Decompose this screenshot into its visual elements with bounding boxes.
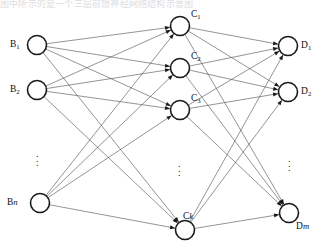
edge-Ck-to-D2 bbox=[191, 100, 282, 222]
node-c3[interactable] bbox=[171, 101, 190, 120]
node-b1[interactable] bbox=[28, 36, 47, 55]
edge-C3-to-D2 bbox=[189, 94, 278, 109]
edge-B1-to-C1-arrowhead bbox=[165, 26, 170, 30]
edge-C1-to-D1 bbox=[189, 28, 278, 44]
edge-Ck-to-Dm bbox=[194, 215, 279, 229]
node-bn[interactable] bbox=[31, 194, 50, 213]
ellipsis-output-layer: ... bbox=[288, 157, 291, 171]
node-label-d2: D2 bbox=[301, 87, 311, 98]
node-b2[interactable] bbox=[28, 81, 47, 100]
edge-C1-to-D2-arrowhead bbox=[274, 82, 279, 86]
arrowheads-group bbox=[165, 26, 284, 229]
edge-Ck-to-D1-arrowhead bbox=[279, 55, 283, 61]
node-d1[interactable] bbox=[279, 37, 298, 56]
edge-Bn-to-C1-arrowhead bbox=[169, 34, 174, 39]
edge-Ck-to-D1 bbox=[190, 55, 284, 222]
edge-B2-to-C2-arrowhead bbox=[165, 68, 170, 72]
edge-B2-to-C2 bbox=[46, 70, 170, 89]
edge-Ck-to-D2-arrowhead bbox=[277, 100, 282, 105]
edges-group bbox=[43, 27, 284, 228]
edge-B1-to-C1 bbox=[46, 27, 170, 43]
node-label-ck: Ck bbox=[183, 212, 193, 222]
ellipsis-hidden-layer: ... bbox=[178, 162, 181, 176]
ellipsis-input-layer: ... bbox=[36, 152, 39, 166]
edge-B2-to-C3-arrowhead bbox=[165, 106, 170, 110]
node-c2[interactable] bbox=[171, 59, 190, 78]
edge-B2-to-C3 bbox=[46, 91, 170, 108]
node-ck[interactable] bbox=[176, 221, 195, 240]
neural-network-diagram: 图中所示的是一个三层前馈神经网络结构示意图 B1B2BnC1C2C3CkD1D2… bbox=[0, 0, 323, 245]
edge-Bn-to-Ck bbox=[49, 205, 175, 228]
edge-Ck-to-Dm-arrowhead bbox=[274, 213, 279, 217]
node-dm[interactable] bbox=[280, 204, 299, 223]
node-label-b2: B2 bbox=[10, 85, 20, 96]
node-label-bn: Bn bbox=[7, 198, 18, 208]
edge-Bn-to-C3 bbox=[48, 115, 172, 197]
edge-C1-to-D1-arrowhead bbox=[273, 41, 278, 45]
edge-C2-to-D2-arrowhead bbox=[273, 87, 279, 91]
edge-B1-to-C3-arrowhead bbox=[165, 102, 171, 106]
edge-B1-to-C2-arrowhead bbox=[165, 64, 170, 68]
node-c1[interactable] bbox=[171, 17, 190, 36]
node-label-d1: D1 bbox=[301, 41, 311, 52]
edge-C3-to-D2-arrowhead bbox=[273, 93, 278, 97]
node-d2[interactable] bbox=[279, 83, 298, 102]
edge-C2-to-D1-arrowhead bbox=[273, 47, 279, 51]
node-label-c1: C1 bbox=[191, 10, 201, 21]
edge-Bn-to-Ck-arrowhead bbox=[170, 225, 175, 229]
node-label-b1: B1 bbox=[10, 40, 20, 51]
edge-B1-to-C2 bbox=[46, 47, 170, 67]
node-label-c3: C3 bbox=[191, 94, 201, 105]
edge-C2-to-D1 bbox=[189, 48, 278, 66]
edge-B2-to-Ck bbox=[44, 97, 178, 224]
edge-B2-to-C1-arrowhead bbox=[165, 30, 171, 34]
node-label-dm: Dm bbox=[296, 222, 309, 232]
node-label-c2: C2 bbox=[191, 52, 201, 63]
edge-Bn-to-C3-arrowhead bbox=[166, 115, 171, 120]
edge-Bn-to-C2 bbox=[47, 75, 173, 197]
edge-C3-to-Dm bbox=[187, 117, 282, 207]
network-graph-canvas bbox=[0, 0, 323, 245]
edge-C3-to-D1-arrowhead bbox=[274, 51, 279, 55]
